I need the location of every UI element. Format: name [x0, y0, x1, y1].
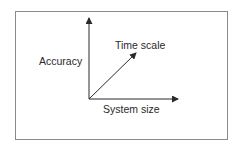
axes-diagram	[0, 0, 240, 147]
accuracy-axis-label: Accuracy	[39, 56, 82, 67]
system-size-axis-label: System size	[103, 104, 160, 115]
time-scale-axis-label: Time scale	[115, 40, 165, 51]
diagonal-axis-arrow	[89, 53, 136, 99]
